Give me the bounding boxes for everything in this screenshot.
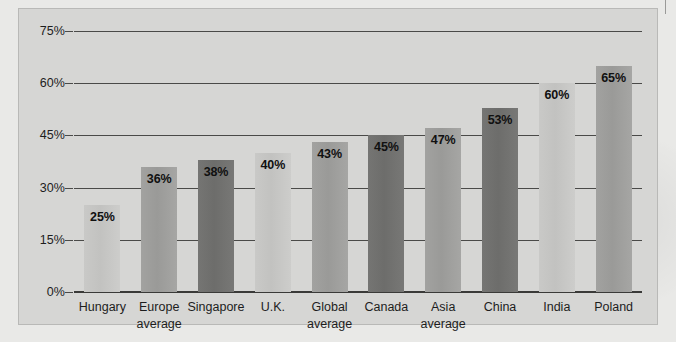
bar-group[interactable]: 60%India	[539, 31, 575, 292]
bar-value-label: 45%	[368, 140, 404, 154]
category-label-line: Asia	[411, 299, 475, 316]
bar-value-label: 38%	[198, 165, 234, 179]
bar-value-label: 53%	[482, 113, 518, 127]
category-label-line: Poland	[582, 299, 646, 316]
plot-area: 0%15%30%45%60%75% 25%Hungary36%Europeave…	[74, 31, 642, 292]
bar-group[interactable]: 47%Asiaaverage	[425, 31, 461, 292]
bar-group[interactable]: 65%Poland	[596, 31, 632, 292]
y-axis-tick-mark	[65, 240, 73, 241]
category-label-line: Europe	[127, 299, 191, 316]
y-axis-tick-mark	[65, 31, 73, 32]
bar[interactable]: 25%	[84, 205, 120, 292]
bar-value-label: 47%	[425, 133, 461, 147]
category-label-line: Canada	[354, 299, 418, 316]
y-axis-tick-label: 60%	[40, 76, 65, 90]
bar-group[interactable]: 45%Canada	[368, 31, 404, 292]
bar[interactable]: 60%	[539, 83, 575, 292]
bar-group[interactable]: 38%Singapore	[198, 31, 234, 292]
y-axis-tick-mark	[65, 188, 73, 189]
x-axis-category-label: Canada	[354, 299, 418, 316]
bar[interactable]: 65%	[596, 66, 632, 292]
x-axis-category-label: Hungary	[70, 299, 134, 316]
x-axis-category-label: Asiaaverage	[411, 299, 475, 332]
x-axis-category-label: Poland	[582, 299, 646, 316]
bar-value-label: 40%	[255, 158, 291, 172]
category-label-line: average	[127, 316, 191, 333]
x-axis-category-label: U.K.	[241, 299, 305, 316]
bar[interactable]: 38%	[198, 160, 234, 292]
bar-group[interactable]: 25%Hungary	[84, 31, 120, 292]
bar-value-label: 36%	[141, 172, 177, 186]
y-axis-tick-mark	[65, 135, 73, 136]
x-axis-category-label: India	[525, 299, 589, 316]
category-label-line: Singapore	[184, 299, 248, 316]
category-label-line: China	[468, 299, 532, 316]
category-label-line: U.K.	[241, 299, 305, 316]
bar-group[interactable]: 43%Globalaverage	[312, 31, 348, 292]
bar-value-label: 60%	[539, 88, 575, 102]
x-axis-category-label: China	[468, 299, 532, 316]
bar[interactable]: 53%	[482, 108, 518, 292]
bar[interactable]: 45%	[368, 135, 404, 292]
page-edge-rule	[665, 0, 666, 14]
x-axis-category-label: Globalaverage	[298, 299, 362, 332]
x-axis-category-label: Singapore	[184, 299, 248, 316]
bar[interactable]: 43%	[312, 142, 348, 292]
y-axis-tick-mark	[65, 292, 73, 293]
bar-group[interactable]: 36%Europeaverage	[141, 31, 177, 292]
category-label-line: average	[298, 316, 362, 333]
category-label-line: Hungary	[70, 299, 134, 316]
bar[interactable]: 47%	[425, 128, 461, 292]
y-axis-tick-label: 0%	[47, 285, 65, 299]
y-axis-tick-label: 45%	[40, 128, 65, 142]
bar[interactable]: 40%	[255, 153, 291, 292]
y-axis-tick-label: 75%	[40, 24, 65, 38]
y-axis-tick-mark	[65, 83, 73, 84]
bar-value-label: 25%	[84, 210, 120, 224]
bar-series: 25%Hungary36%Europeaverage38%Singapore40…	[74, 31, 642, 292]
y-axis-tick-label: 15%	[40, 233, 65, 247]
bar-group[interactable]: 40%U.K.	[255, 31, 291, 292]
bar-value-label: 43%	[312, 147, 348, 161]
category-label-line: average	[411, 316, 475, 333]
bar[interactable]: 36%	[141, 167, 177, 292]
bar-value-label: 65%	[596, 71, 632, 85]
y-axis-tick-label: 30%	[40, 181, 65, 195]
category-label-line: Global	[298, 299, 362, 316]
category-label-line: India	[525, 299, 589, 316]
x-axis-category-label: Europeaverage	[127, 299, 191, 332]
bar-chart-panel: 0%15%30%45%60%75% 25%Hungary36%Europeave…	[18, 8, 658, 325]
bar-group[interactable]: 53%China	[482, 31, 518, 292]
